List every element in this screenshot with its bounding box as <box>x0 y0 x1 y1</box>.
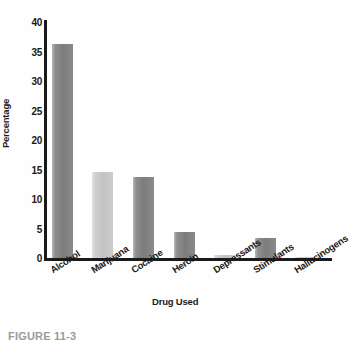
x-tick-label: Heroin <box>170 250 200 275</box>
x-tick-label: Marijuana <box>89 243 130 275</box>
x-tick-label: Alcohol <box>48 248 82 275</box>
figure-caption: FIGURE 11-3 <box>8 330 76 340</box>
x-tick-label: Hallucinogens <box>292 232 349 275</box>
x-axis-title: Drug Used <box>152 296 198 307</box>
x-tick-label: Cocaine <box>129 247 165 275</box>
